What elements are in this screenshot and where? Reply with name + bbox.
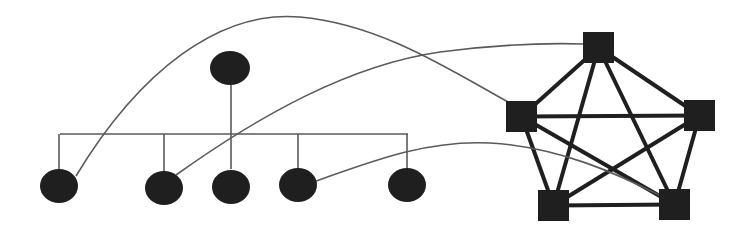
- bus-node-circle-c3: [212, 170, 250, 204]
- mesh-node-square-right: [684, 100, 715, 131]
- bus-node-circle-c2: [145, 171, 183, 205]
- mesh-node-square-top: [583, 32, 614, 63]
- network-diagram: [0, 0, 756, 234]
- mesh-node-square-bottom-left: [538, 190, 569, 221]
- bus-node-circle-c4: [279, 168, 317, 202]
- bus-node-circle-c1: [40, 169, 78, 203]
- link-curve-c1-to-left: [76, 16, 508, 176]
- bus-topology-lines: [59, 85, 408, 173]
- bus-topology-nodes: [40, 51, 426, 205]
- bus-node-circle-c5: [388, 168, 426, 202]
- mesh-edge-bottom-left-bottom-right: [554, 205, 675, 206]
- mesh-edge-left-right: [522, 116, 700, 117]
- root-node-circle: [210, 51, 250, 85]
- mesh-node-square-bottom-right: [659, 189, 690, 220]
- mesh-topology-edges: [522, 48, 700, 206]
- mesh-node-square-left: [506, 101, 537, 132]
